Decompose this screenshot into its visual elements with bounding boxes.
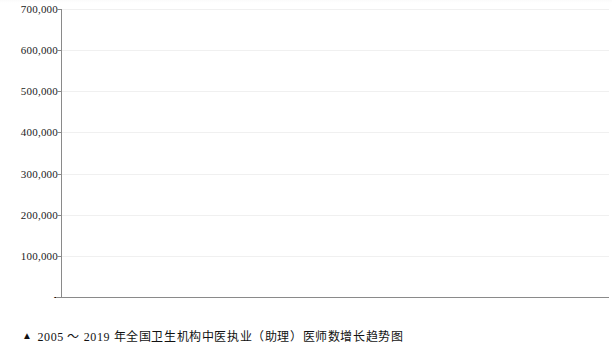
y-axis-tick <box>56 256 62 257</box>
y-axis-tick-label: 300,000 <box>0 168 58 179</box>
triangle-marker-icon: ▲ <box>22 331 33 341</box>
bar-series <box>62 9 609 297</box>
y-axis-tick-label: - <box>0 291 58 303</box>
figure-caption-text: 2005 ～ 2019 年全国卫生机构中医执业（助理）医师数增长趋势图 <box>38 327 404 345</box>
y-axis-tick-label: 100,000 <box>0 250 58 261</box>
plot-area <box>62 9 609 297</box>
y-axis: -100,000200,000300,000400,000500,000600,… <box>0 0 58 316</box>
y-axis-tick <box>56 174 62 175</box>
x-axis-ticks <box>62 297 609 301</box>
y-axis-tick <box>56 9 62 10</box>
y-axis-tick-label: 600,000 <box>0 45 58 56</box>
y-axis-tick-label: 400,000 <box>0 127 58 138</box>
y-axis-tick <box>56 297 62 298</box>
y-axis-tick <box>56 50 62 51</box>
y-axis-tick-label: 200,000 <box>0 209 58 220</box>
chart-page: -100,000200,000300,000400,000500,000600,… <box>0 0 612 347</box>
y-axis-tick-label: 700,000 <box>0 4 58 15</box>
figure-caption: ▲ 2005 ～ 2019 年全国卫生机构中医执业（助理）医师数增长趋势图 <box>0 325 612 347</box>
bar-chart: -100,000200,000300,000400,000500,000600,… <box>0 0 612 316</box>
y-axis-tick <box>56 215 62 216</box>
y-axis-tick <box>56 132 62 133</box>
y-axis-tick <box>56 91 62 92</box>
y-axis-tick-label: 500,000 <box>0 86 58 97</box>
